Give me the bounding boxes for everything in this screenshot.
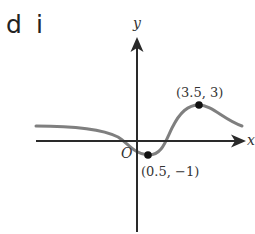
graph: y x O (3.5, 3) (0.5, −1) (0, 0, 255, 234)
x-axis-label: x (247, 132, 255, 148)
maximum-point (195, 101, 203, 109)
minimum-point (144, 151, 152, 159)
maximum-point-label: (3.5, 3) (176, 85, 223, 100)
y-axis-label: y (132, 15, 142, 31)
origin-label: O (121, 145, 133, 161)
minimum-point-label: (0.5, −1) (141, 164, 199, 179)
function-curve (36, 105, 242, 155)
